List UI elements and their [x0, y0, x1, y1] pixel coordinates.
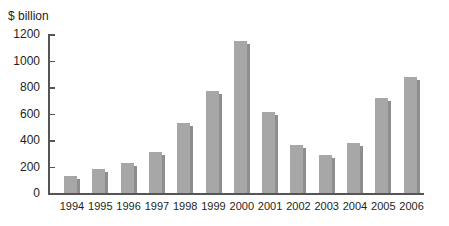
bar-2005: [375, 98, 388, 193]
bar-1997: [149, 152, 162, 193]
y-tick-label: 1200: [13, 28, 40, 40]
x-tick-label: 2004: [340, 200, 370, 212]
bar-1995: [92, 169, 105, 193]
x-tick-label: 2005: [368, 200, 398, 212]
bar-1999: [206, 91, 219, 193]
bar-1998: [177, 123, 190, 193]
y-tick: [48, 114, 55, 116]
x-tick-label: 2006: [397, 200, 427, 212]
y-tick: [48, 167, 55, 169]
y-tick-label: 200: [20, 161, 40, 173]
bar-2003: [319, 155, 332, 193]
y-tick: [48, 34, 55, 36]
bar-2001: [262, 112, 275, 193]
x-tick-label: 2001: [255, 200, 285, 212]
y-tick-label: 600: [20, 108, 40, 120]
bar-2000: [234, 41, 247, 193]
x-axis-line: [48, 193, 424, 195]
x-tick-label: 1996: [114, 200, 144, 212]
y-tick: [48, 61, 55, 63]
y-tick-label: 0: [33, 187, 40, 199]
y-tick: [48, 140, 55, 142]
x-tick-label: 2000: [227, 200, 257, 212]
x-tick-label: 1998: [170, 200, 200, 212]
x-tick-label: 1994: [57, 200, 87, 212]
bar-1996: [121, 163, 134, 193]
x-tick-label: 2003: [312, 200, 342, 212]
y-tick-label: 400: [20, 134, 40, 146]
y-tick-label: 1000: [13, 55, 40, 67]
y-tick: [48, 87, 55, 89]
x-tick-label: 1995: [85, 200, 115, 212]
bar-2004: [347, 143, 360, 193]
x-tick-label: 1997: [142, 200, 172, 212]
x-tick-label: 2002: [283, 200, 313, 212]
bar-2002: [290, 145, 303, 193]
bar-1994: [64, 176, 77, 193]
y-axis-title: $ billion: [8, 9, 49, 23]
x-tick-label: 1999: [199, 200, 229, 212]
bar-2006: [404, 77, 417, 193]
y-tick: [48, 193, 55, 195]
y-tick-label: 800: [20, 81, 40, 93]
